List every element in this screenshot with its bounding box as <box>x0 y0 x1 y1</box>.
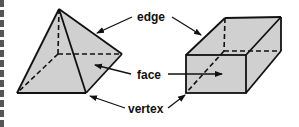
face-label: face <box>137 68 161 82</box>
edge-label: edge <box>137 10 165 24</box>
vertex-arrow-left <box>90 96 125 108</box>
edge-arrow-left <box>97 17 132 33</box>
pyramid <box>17 9 122 93</box>
vertex-label: vertex <box>128 102 164 116</box>
vertex-arrow-right <box>168 95 185 108</box>
rectangular-prism <box>186 17 281 93</box>
geometry-diagram: edge face vertex <box>0 0 299 127</box>
edge-arrow-right <box>172 17 201 35</box>
